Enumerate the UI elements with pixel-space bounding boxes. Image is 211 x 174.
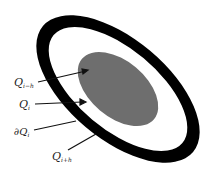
label-boundary-q-i: ∂Qi — [14, 126, 29, 138]
label-q-i-plus-h: Qi+h — [52, 150, 72, 163]
arrow-boundary-q-i — [34, 121, 76, 130]
label-q-i: Qi — [19, 98, 30, 111]
label-q-i-minus-h: Qi−h — [14, 76, 34, 89]
nested-regions-diagram: Qi−h Qi ∂Qi Qi+h — [0, 0, 211, 174]
arrow-q-i-plus-h — [68, 134, 96, 150]
